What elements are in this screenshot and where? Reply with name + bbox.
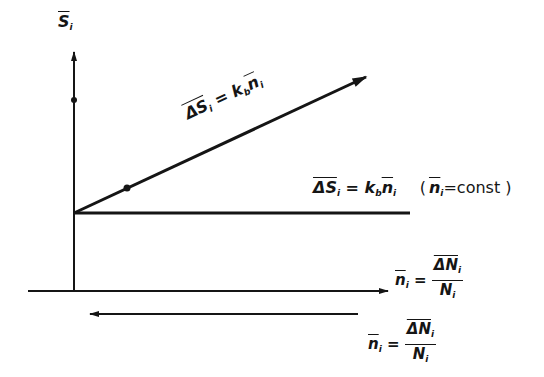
sub-i: i bbox=[458, 265, 461, 275]
n-bar: n bbox=[395, 271, 406, 289]
x-axis-label: ni = ΔNi Ni bbox=[395, 256, 463, 304]
denominator: Ni bbox=[413, 345, 429, 368]
n-total: N bbox=[440, 281, 453, 299]
y-axis-label: Si bbox=[58, 12, 73, 32]
equals-sign: = bbox=[414, 271, 427, 289]
y-subscript: i bbox=[70, 22, 73, 32]
equals-sign: = bbox=[387, 335, 400, 353]
sub-i: i bbox=[452, 290, 455, 300]
numerator: ΔNi bbox=[432, 256, 463, 281]
delta-s: ΔS bbox=[313, 178, 337, 197]
sub-i: i bbox=[406, 280, 409, 290]
sub-i: i bbox=[379, 344, 382, 354]
n-bar: n bbox=[382, 178, 393, 197]
fraction: ΔNi Ni bbox=[432, 256, 463, 304]
fraction: ΔNi Ni bbox=[405, 320, 436, 368]
n-total: N bbox=[413, 345, 426, 363]
numerator: ΔNi bbox=[405, 320, 436, 345]
diagonal-dot bbox=[124, 185, 131, 192]
denominator: Ni bbox=[440, 281, 456, 304]
condition-text: =const ) bbox=[443, 178, 511, 197]
y-axis-dot bbox=[71, 97, 77, 103]
equals-k: = k bbox=[346, 178, 376, 197]
sub-i: i bbox=[393, 188, 396, 198]
condition-n: n bbox=[429, 178, 440, 197]
y-symbol: S bbox=[58, 12, 70, 31]
condition-open: ( bbox=[420, 178, 426, 197]
horizontal-line-label: ΔSi = kbni (ni=const ) bbox=[313, 178, 512, 198]
sub-i: i bbox=[431, 329, 434, 339]
sub-i: i bbox=[337, 188, 340, 198]
n-bar: n bbox=[368, 335, 379, 353]
sub-i: i bbox=[425, 354, 428, 364]
delta-n: ΔN bbox=[434, 256, 458, 274]
lower-arrow-label: ni = ΔNi Ni bbox=[368, 320, 436, 368]
delta-n: ΔN bbox=[407, 320, 431, 338]
